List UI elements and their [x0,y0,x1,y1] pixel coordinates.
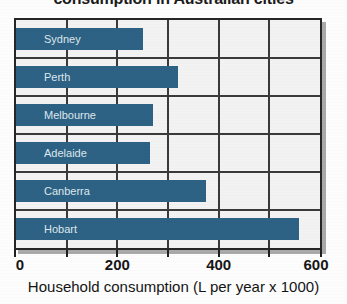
category-band: Melbourne [16,96,320,134]
category-band: Sydney [16,20,320,58]
bar-perth: Perth [16,66,178,88]
x-axis-tick [268,250,270,257]
bar-melbourne: Melbourne [16,104,153,126]
bar-label-melbourne: Melbourne [44,109,96,121]
bar-label-canberra: Canberra [44,185,90,197]
x-axis-tick-label: 200 [105,256,130,273]
category-band: Hobart [16,210,320,248]
x-axis-title: Household consumption (L per year x 1000… [0,278,347,295]
plot-area: SydneyPerthMelbourneAdelaideCanberraHoba… [14,18,322,250]
bar-chart: consumption in Australian cities SydneyP… [0,0,347,304]
x-axis-tick-label: 400 [206,256,231,273]
bar-adelaide: Adelaide [16,142,150,164]
x-axis-tick [66,250,68,257]
bar-label-adelaide: Adelaide [44,147,87,159]
bar-label-sydney: Sydney [44,33,81,45]
bar-label-hobart: Hobart [44,223,77,235]
x-axis-tick-label: 0 [16,256,24,273]
plot-inner: SydneyPerthMelbourneAdelaideCanberraHoba… [16,20,320,248]
category-band: Canberra [16,172,320,210]
x-axis-tick [167,250,169,257]
bar-label-perth: Perth [44,71,70,83]
bar-canberra: Canberra [16,180,206,202]
bar-hobart: Hobart [16,218,299,240]
chart-title: consumption in Australian cities [0,0,347,8]
chart-title-container: consumption in Australian cities [0,0,347,13]
x-axis-tick-label: 600 [303,256,328,273]
category-band: Perth [16,58,320,96]
bar-sydney: Sydney [16,28,143,50]
category-band: Adelaide [16,134,320,172]
